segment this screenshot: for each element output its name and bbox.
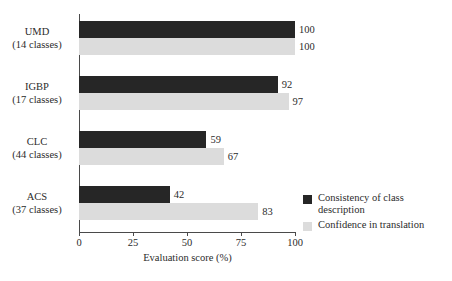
category-subtitle: (17 classes) xyxy=(0,94,74,107)
bar-value-acs-series2: 83 xyxy=(262,203,273,220)
x-tick-label: 50 xyxy=(167,237,207,248)
category-label-umd: UMD(14 classes) xyxy=(0,26,74,51)
legend-label-consistency: Consistency of class description xyxy=(318,192,404,216)
legend-label-consistency-line1: Consistency of class xyxy=(318,192,404,203)
category-name: CLC xyxy=(0,136,74,149)
category-label-acs: ACS(37 classes) xyxy=(0,191,74,216)
category-name: IGBP xyxy=(0,81,74,94)
bar-igbp-series2 xyxy=(79,93,289,110)
x-tick xyxy=(187,232,188,236)
x-tick xyxy=(241,232,242,236)
bar-acs-series2 xyxy=(79,203,258,220)
legend-item-confidence: Confidence in translation xyxy=(303,219,449,231)
bar-clc-series2 xyxy=(79,148,224,165)
bar-acs-series1 xyxy=(79,186,170,203)
bar-value-umd-series1: 100 xyxy=(299,21,315,38)
bar-umd-series2 xyxy=(79,38,295,55)
bar-value-umd-series2: 100 xyxy=(299,38,315,55)
category-label-clc: CLC(44 classes) xyxy=(0,136,74,161)
legend-label-confidence: Confidence in translation xyxy=(318,219,424,231)
category-subtitle: (14 classes) xyxy=(0,39,74,52)
bar-value-igbp-series2: 97 xyxy=(293,93,304,110)
x-tick xyxy=(79,232,80,236)
bar-umd-series1 xyxy=(79,21,295,38)
x-tick xyxy=(295,232,296,236)
x-tick xyxy=(133,232,134,236)
bar-clc-series1 xyxy=(79,131,206,148)
bar-value-igbp-series1: 92 xyxy=(282,76,293,93)
bar-value-clc-series1: 59 xyxy=(210,131,221,148)
category-name: ACS xyxy=(0,191,74,204)
legend-swatch-light-icon xyxy=(303,222,312,231)
x-tick-label: 75 xyxy=(221,237,261,248)
category-subtitle: (37 classes) xyxy=(0,204,74,217)
legend-item-consistency: Consistency of class description xyxy=(303,192,449,216)
bar-value-clc-series2: 67 xyxy=(228,148,239,165)
x-tick-label: 25 xyxy=(113,237,153,248)
bar-value-acs-series1: 42 xyxy=(174,186,185,203)
legend: Consistency of class description Confide… xyxy=(303,192,449,234)
bar-igbp-series1 xyxy=(79,76,278,93)
legend-swatch-dark-icon xyxy=(303,195,312,204)
x-axis-title: Evaluation score (%) xyxy=(79,252,296,263)
bar-chart: 0255075100 Evaluation score (%) UMD(14 c… xyxy=(0,0,452,281)
category-name: UMD xyxy=(0,26,74,39)
category-subtitle: (44 classes) xyxy=(0,149,74,162)
category-label-igbp: IGBP(17 classes) xyxy=(0,81,74,106)
legend-label-consistency-line2: description xyxy=(318,204,365,215)
x-tick-label: 100 xyxy=(275,237,315,248)
x-tick-label: 0 xyxy=(59,237,99,248)
